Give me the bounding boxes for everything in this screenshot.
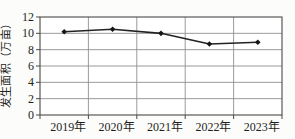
x-tick-label: 2020年 xyxy=(99,120,135,134)
y-tick-label: 0 xyxy=(28,108,34,122)
y-tick-label: 4 xyxy=(28,75,34,89)
y-tick-label: 12 xyxy=(22,10,34,24)
plot-canvas: 0246810122019年2020年2021年2022年2023年 发生面积（… xyxy=(0,0,295,139)
y-tick-label: 2 xyxy=(28,92,34,106)
y-tick-label: 6 xyxy=(28,59,34,73)
x-tick-label: 2023年 xyxy=(244,120,280,134)
x-tick-label: 2022年 xyxy=(195,120,231,134)
y-axis-title: 发生面积（万亩） xyxy=(0,18,12,108)
y-tick-label: 10 xyxy=(22,26,34,40)
y-tick-label: 8 xyxy=(28,43,34,57)
x-tick-label: 2019年 xyxy=(50,120,86,134)
x-tick-label: 2021年 xyxy=(147,120,183,134)
line-chart: 0246810122019年2020年2021年2022年2023年 发生面积（… xyxy=(0,0,295,139)
